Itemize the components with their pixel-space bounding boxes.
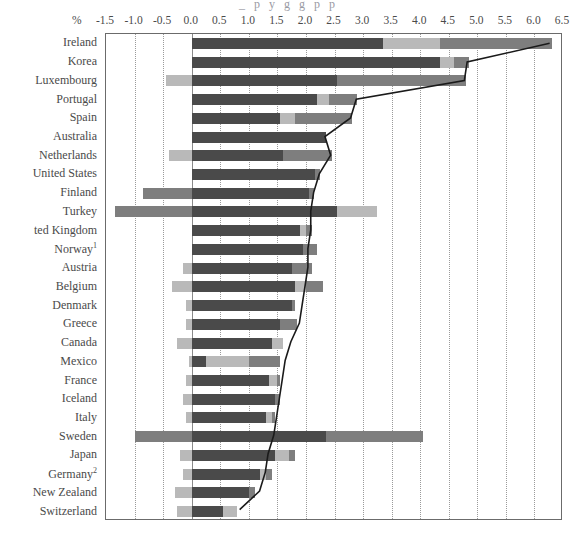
bar-segment-c [249,487,255,498]
bar-segment-c [315,169,321,180]
bar-segment-a [192,431,326,442]
bar-segment-negative [183,469,192,480]
x-axis-tick-label: -1.0 [124,14,142,26]
category-label-united-states: United States [33,167,97,179]
x-axis-tick-label: -1.5 [96,14,114,26]
bar-segment-negative [166,75,192,86]
bar-segment-c [329,94,358,105]
bar-segment-b [295,281,306,292]
bar-segment-c [303,244,317,255]
bar-segment-a [192,225,301,236]
bar-segment-b [383,38,440,49]
category-label-japan: Japan [70,448,97,460]
category-label-luxembourg: Luxembourg [35,74,97,86]
x-axis-tick-label: 5.0 [469,14,483,26]
bar-segment-c [306,281,323,292]
x-axis-tick-label: 0.5 [212,14,226,26]
bar-segment-a [192,338,272,349]
category-label-spain: Spain [70,111,97,123]
bar-segment-b [275,450,289,461]
bar-segment-b [206,356,249,367]
category-label-finland: Finland [60,186,97,198]
bar-segment-a [192,244,303,255]
bar-segment-negative [143,188,192,199]
bar-segment-c [326,431,423,442]
bar-segment-b [272,338,283,349]
category-label-norway: Norway1 [54,242,97,255]
bar-segment-c [306,225,312,236]
x-axis-tick-label: 4.0 [412,14,426,26]
x-axis-tick-label: 1.5 [269,14,283,26]
bar-segment-negative [180,450,191,461]
bar-segment-c [266,469,272,480]
bar-segment-b [223,506,237,517]
bar-segment-a [192,469,261,480]
category-label-ireland: Ireland [63,36,97,48]
x-axis-tick-label: 2.5 [326,14,340,26]
x-axis-tick-label: 3.0 [355,14,369,26]
category-label-denmark: Denmark [52,299,97,311]
bar-layer [106,34,561,519]
category-label-belgium: Belgium [56,280,97,292]
category-label-germany: Germany2 [48,467,97,480]
category-label-france: France [64,374,97,386]
bar-segment-c [280,319,297,330]
x-axis-tick-label: 6.5 [555,14,569,26]
x-axis-tick-label: 3.5 [383,14,397,26]
category-label-new-zealand: New Zealand [33,486,97,498]
bar-segment-a [192,506,223,517]
bar-segment-a [192,450,275,461]
category-label-austria: Austria [62,261,97,273]
bar-segment-negative [177,506,191,517]
bar-segment-c [440,38,551,49]
bar-segment-negative [177,338,191,349]
category-label-turkey: Turkey [63,205,97,217]
bar-segment-c [283,150,332,161]
bar-segment-a [192,281,295,292]
x-axis-tick-label: -0.5 [153,14,171,26]
bar-segment-negative [135,431,192,442]
bar-segment-b [280,113,294,124]
category-label-portugal: Portugal [56,93,97,105]
horizontal-stacked-bar-chart: _ p y g g p p % -1.5-1.0-0.50.00.51.01.5… [0,0,577,541]
bar-segment-c [277,375,280,386]
plot-area [105,33,562,520]
bar-segment-c [292,263,312,274]
bar-segment-c [272,412,275,423]
category-label-greece: Greece [63,317,97,329]
category-label-column: IrelandKoreaLuxembourgPortugalSpainAustr… [0,33,101,520]
category-label-switzerland: Switzerland [40,505,97,517]
category-label-canada: Canada [61,336,97,348]
bar-segment-a [192,75,338,86]
bar-segment-a [192,356,206,367]
bar-segment-a [192,150,283,161]
x-axis-unit-label: % [72,14,82,26]
bar-segment-c [295,113,352,124]
bar-segment-a [192,206,338,217]
bar-segment-c [249,356,280,367]
bar-segment-a [192,113,281,124]
bar-segment-a [192,412,266,423]
x-axis-tick-row: % -1.5-1.0-0.50.00.51.01.52.02.53.03.54.… [0,14,577,30]
category-label-iceland: Iceland [62,392,97,404]
bar-segment-c [289,450,295,461]
bar-segment-b [440,57,454,68]
x-axis-tick-label: 1.0 [241,14,255,26]
bar-segment-negative [175,487,192,498]
bar-segment-b [317,94,328,105]
bar-segment-c [275,394,281,405]
x-axis-tick-label: 2.0 [298,14,312,26]
category-label-ted-kingdom: ted Kingdom [34,224,97,236]
category-label-australia: Australia [53,130,97,142]
bar-segment-a [192,94,318,105]
bar-segment-negative [169,150,192,161]
x-axis-tick-label: 5.5 [498,14,512,26]
category-label-korea: Korea [68,55,97,67]
bar-segment-a [192,319,281,330]
bar-segment-a [192,375,269,386]
bar-segment-a [192,263,292,274]
bar-segment-a [192,132,326,143]
bar-segment-c [309,188,315,199]
bar-segment-a [192,188,309,199]
cut-off-caption-sliver: _ p y g g p p [0,0,577,12]
